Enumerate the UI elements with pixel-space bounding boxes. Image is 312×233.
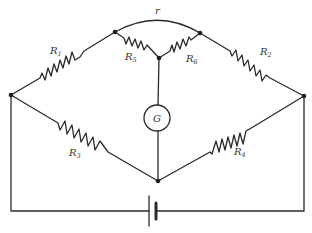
resistor-r3 <box>11 95 158 181</box>
node-left <box>9 93 14 98</box>
resistor-r5 <box>115 32 159 58</box>
arc-wire-r <box>115 20 200 33</box>
node-top-left <box>113 30 118 35</box>
resistor-r6 <box>159 33 200 58</box>
node-right <box>302 94 307 99</box>
label-r2: R2 <box>259 46 272 59</box>
label-r3: R3 <box>68 147 81 160</box>
wire-center-to-galvanometer <box>158 58 159 105</box>
label-r1: R1 <box>49 45 62 58</box>
label-r6: R6 <box>185 53 198 66</box>
node-center <box>157 56 162 61</box>
galvanometer-label: G <box>153 113 161 124</box>
resistor-r2 <box>200 33 304 96</box>
label-r5: R5 <box>124 51 137 64</box>
bridge-circuit-diagram: G r R1 R2 R3 R4 R5 R6 <box>0 0 312 233</box>
resistor-r4 <box>158 96 304 181</box>
galvanometer: G <box>144 105 170 131</box>
wire-battery-to-right <box>157 96 304 211</box>
node-top-right <box>198 31 203 36</box>
label-r4: R4 <box>233 146 246 159</box>
resistor-r1 <box>11 32 115 95</box>
node-bottom <box>156 179 161 184</box>
label-r: r <box>155 5 161 16</box>
battery-icon <box>149 196 156 226</box>
